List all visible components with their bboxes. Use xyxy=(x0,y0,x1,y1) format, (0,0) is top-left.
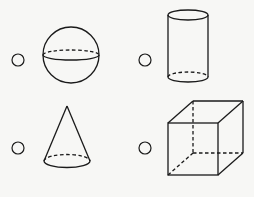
radio-option-a[interactable] xyxy=(12,54,24,66)
cube-shape xyxy=(168,101,243,175)
sphere-shape xyxy=(43,27,99,83)
cone-shape xyxy=(44,106,90,168)
radio-option-c[interactable] xyxy=(12,142,24,154)
radio-option-b[interactable] xyxy=(139,54,151,66)
radio-option-d[interactable] xyxy=(139,142,151,154)
shape-choice-diagram: Sphere Cylinder Cone Cube xyxy=(0,0,254,197)
cylinder-shape xyxy=(168,10,208,82)
